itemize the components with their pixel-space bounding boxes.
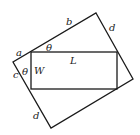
label-c: c [13, 69, 19, 80]
label-W: W [34, 65, 45, 76]
label-d-top: d [109, 22, 115, 33]
label-L: L [69, 55, 77, 66]
label-b: b [66, 16, 72, 27]
label-theta-left: θ [22, 66, 28, 77]
label-a: a [16, 47, 22, 58]
geometry-diagram: a θ b d L W θ c d [0, 0, 140, 135]
label-d-bottom: d [33, 110, 39, 121]
label-theta-top: θ [46, 42, 52, 53]
